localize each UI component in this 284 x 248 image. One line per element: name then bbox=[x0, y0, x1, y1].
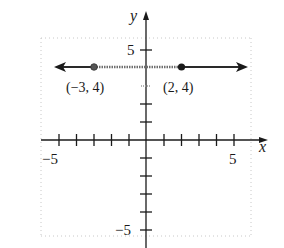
point-neg3-4 bbox=[91, 64, 98, 71]
point-label-neg3-4: (−3, 4) bbox=[66, 80, 105, 96]
y-axis bbox=[140, 11, 152, 248]
x-axis-label: x bbox=[258, 138, 266, 155]
x-tick-label-5: 5 bbox=[229, 151, 237, 167]
coordinate-plane: y x 5 −5 −5 5 (−3, 4) (2, 4) bbox=[0, 0, 284, 248]
y-axis-label: y bbox=[128, 7, 138, 25]
y-tick-label-5: 5 bbox=[127, 42, 135, 58]
line-y-equals-4 bbox=[54, 62, 248, 72]
x-tick-label-neg5: −5 bbox=[42, 151, 58, 167]
x-axis bbox=[41, 134, 268, 146]
point-label-2-4: (2, 4) bbox=[163, 80, 194, 96]
point-2-4 bbox=[178, 63, 185, 70]
y-tick-label-neg5: −5 bbox=[115, 222, 131, 238]
y-axis-arrow-icon bbox=[143, 11, 149, 20]
